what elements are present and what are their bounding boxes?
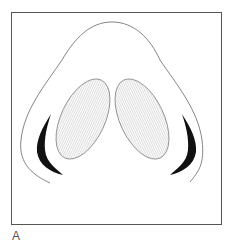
nasal-base-diagram — [0, 0, 225, 246]
nose-outline — [21, 22, 203, 183]
right-alar-graft — [170, 114, 196, 175]
panel-label: A — [12, 229, 20, 243]
figure-frame — [12, 13, 222, 225]
right-nostril — [104, 71, 180, 168]
left-nostril — [45, 71, 121, 168]
